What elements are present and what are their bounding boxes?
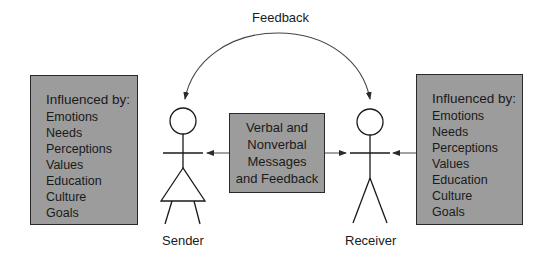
message-line: Verbal and [236,119,318,136]
influence-item: Perceptions [46,141,137,157]
influence-item: Emotions [46,109,137,125]
sender-label: Sender [162,233,204,248]
influence-item: Goals [46,205,137,221]
influence-item: Needs [432,124,522,140]
influence-item: Emotions [432,108,522,124]
receiver-figure-icon [350,109,390,223]
message-box: Verbal and Nonverbal Messages and Feedba… [229,113,325,193]
receiver-influences-box: Influenced by: Emotions Needs Perception… [416,74,523,225]
message-line: Nonverbal [236,136,318,153]
message-line: Messages [236,153,318,170]
influences-heading: Influenced by: [432,90,522,107]
influence-item: Goals [432,204,522,220]
influence-item: Perceptions [432,140,522,156]
sender-influences-box: Influenced by: Emotions Needs Perception… [30,75,138,225]
receiver-label: Receiver [345,233,396,248]
feedback-arc-arrow [185,33,278,99]
influence-item: Values [46,157,137,173]
influences-heading: Influenced by: [46,91,137,108]
influence-item: Culture [46,189,137,205]
influence-item: Needs [46,125,137,141]
influence-item: Education [432,172,522,188]
influence-item: Education [46,173,137,189]
sender-figure-icon [161,108,205,224]
influence-item: Values [432,156,522,172]
feedback-arc-arrow [278,33,370,99]
message-line: and Feedback [236,170,318,187]
communication-diagram: Feedback Influenced by: Emotions Needs P… [0,0,548,257]
feedback-label: Feedback [252,10,309,25]
influence-item: Culture [432,188,522,204]
